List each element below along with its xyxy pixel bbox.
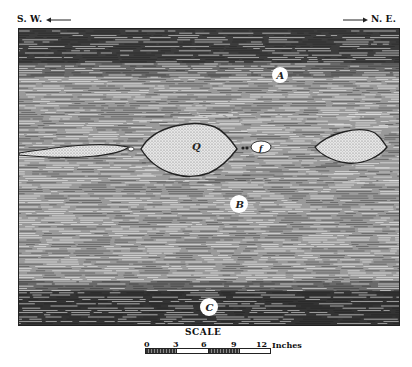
right-arrow-icon [342, 17, 368, 23]
scale-bar [145, 348, 271, 354]
label-a: A [276, 70, 285, 81]
scale-title: SCALE [185, 327, 221, 337]
cross-section-drawing: A B C Q f [19, 29, 399, 325]
scale-segment [146, 349, 177, 353]
direction-northeast: N. E. [342, 14, 396, 24]
scale-units: Inches [272, 340, 302, 350]
pebble-left [128, 147, 134, 151]
direction-southwest-label: S. W. [17, 14, 42, 24]
scale-segment [240, 349, 270, 353]
left-arrow-icon [46, 17, 72, 23]
pebble-dot [241, 146, 244, 149]
label-c: C [206, 302, 214, 313]
label-q: Q [192, 141, 201, 152]
geologic-cross-section: A B C Q f [18, 28, 400, 326]
direction-southwest: S. W. [17, 14, 72, 24]
scale-segment [177, 349, 208, 353]
pebble-dot [245, 146, 248, 149]
direction-northeast-label: N. E. [371, 14, 396, 24]
scale-segment [209, 349, 240, 353]
label-b: B [235, 199, 244, 210]
